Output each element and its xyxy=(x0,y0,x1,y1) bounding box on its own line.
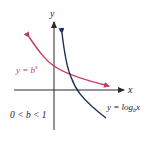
log-label-arg: x xyxy=(135,102,140,112)
graph: y x y = bx y = logbx 0 < b < 1 xyxy=(0,0,154,150)
exp-curve-label: y = bx xyxy=(15,64,38,75)
condition-label: 0 < b < 1 xyxy=(10,110,47,120)
y-axis-label: y xyxy=(49,8,55,19)
exp-label-exponent: x xyxy=(34,64,38,70)
log-curve xyxy=(62,33,106,118)
log-curve-label: y = logbx xyxy=(106,102,140,113)
x-axis-label: x xyxy=(127,84,133,95)
exp-label-base: y = b xyxy=(15,65,36,75)
log-label-base: y = log xyxy=(106,102,134,112)
exp-curve xyxy=(29,37,109,86)
